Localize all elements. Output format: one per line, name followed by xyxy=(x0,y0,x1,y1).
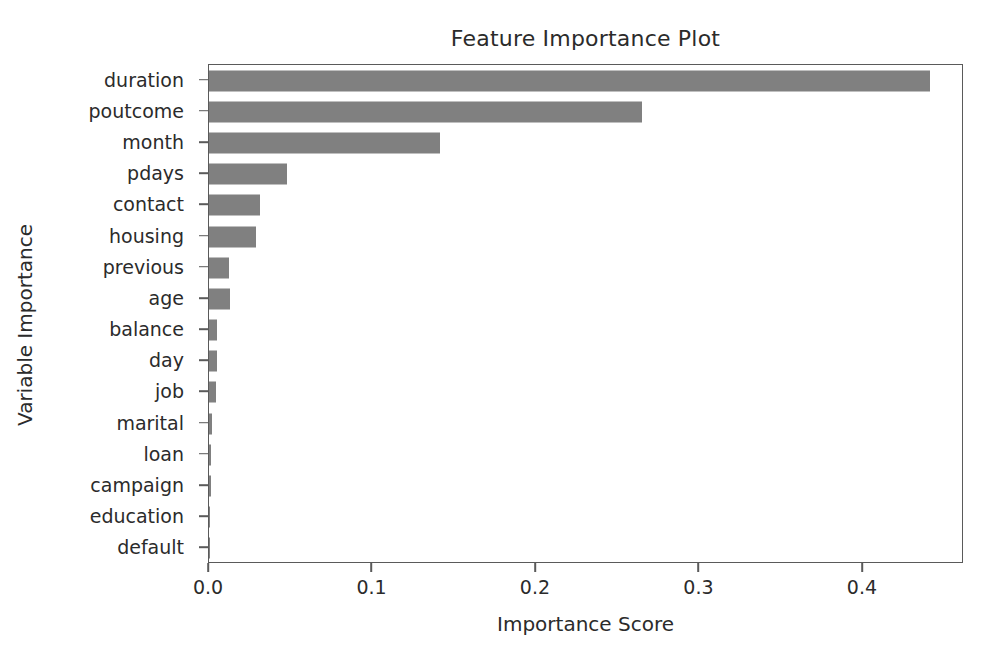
y-tick-label-previous: previous xyxy=(103,257,184,276)
y-tick-mark xyxy=(199,453,208,455)
x-tick-mark xyxy=(207,563,209,572)
bar-series xyxy=(209,65,962,562)
x-tick-mark xyxy=(698,563,700,572)
bar-contact xyxy=(209,195,260,216)
y-tick-mark xyxy=(199,235,208,237)
y-tick-mark xyxy=(199,484,208,486)
y-tick-label-job: job xyxy=(155,382,184,401)
bar-month xyxy=(209,132,440,153)
y-tick-label-poutcome: poutcome xyxy=(89,101,184,120)
x-tick-label-0.2: 0.2 xyxy=(520,578,550,597)
bar-housing xyxy=(209,226,256,247)
y-tick-mark xyxy=(199,204,208,206)
bar-day xyxy=(209,351,217,372)
y-tick-label-contact: contact xyxy=(113,195,184,214)
bar-age xyxy=(209,288,230,309)
bar-row xyxy=(209,502,962,533)
y-tick-label-balance: balance xyxy=(109,320,184,339)
bar-row xyxy=(209,221,962,252)
x-tick-mark xyxy=(861,563,863,572)
bar-row xyxy=(209,190,962,221)
bar-loan xyxy=(209,444,211,465)
bar-row xyxy=(209,315,962,346)
bar-marital xyxy=(209,413,212,434)
y-tick-label-duration: duration xyxy=(104,70,184,89)
y-tick-label-loan: loan xyxy=(143,444,184,463)
x-axis-tick-labels: 0.00.10.20.30.4 xyxy=(208,578,963,606)
x-axis-title: Importance Score xyxy=(208,612,963,636)
y-tick-label-housing: housing xyxy=(109,226,184,245)
plot-area xyxy=(208,64,963,563)
bar-balance xyxy=(209,320,217,341)
bar-poutcome xyxy=(209,101,642,122)
bar-row xyxy=(209,96,962,127)
bar-row xyxy=(209,159,962,190)
y-axis-tick-labels: durationpoutcomemonthpdayscontacthousing… xyxy=(0,64,198,563)
bar-row xyxy=(209,377,962,408)
y-tick-label-month: month xyxy=(122,132,184,151)
bar-row xyxy=(209,283,962,314)
bar-row xyxy=(209,252,962,283)
bar-campaign xyxy=(209,476,211,497)
y-tick-label-marital: marital xyxy=(116,413,184,432)
y-tick-label-education: education xyxy=(90,507,184,526)
x-tick-label-0.4: 0.4 xyxy=(847,578,877,597)
bar-pdays xyxy=(209,164,287,185)
y-tick-label-campaign: campaign xyxy=(90,476,184,495)
y-tick-mark xyxy=(199,79,208,81)
bar-row xyxy=(209,470,962,501)
bar-education xyxy=(209,507,210,528)
y-tick-label-day: day xyxy=(149,351,184,370)
y-tick-mark xyxy=(199,266,208,268)
chart-title: Feature Importance Plot xyxy=(208,26,963,51)
bar-row xyxy=(209,127,962,158)
y-tick-mark xyxy=(199,328,208,330)
bar-duration xyxy=(209,70,930,91)
y-tick-mark xyxy=(199,422,208,424)
figure-canvas: Feature Importance Plot Variable Importa… xyxy=(0,0,1006,665)
x-tick-label-0.0: 0.0 xyxy=(193,578,223,597)
bar-row xyxy=(209,533,962,564)
x-axis-tick-marks xyxy=(208,563,963,573)
y-tick-mark xyxy=(199,515,208,517)
bar-row xyxy=(209,439,962,470)
y-tick-mark xyxy=(199,110,208,112)
y-tick-label-pdays: pdays xyxy=(127,164,184,183)
x-tick-mark xyxy=(534,563,536,572)
x-tick-mark xyxy=(371,563,373,572)
y-tick-mark xyxy=(199,391,208,393)
y-tick-label-age: age xyxy=(149,288,184,307)
y-tick-mark xyxy=(199,141,208,143)
y-tick-label-default: default xyxy=(117,538,184,557)
x-tick-label-0.3: 0.3 xyxy=(683,578,713,597)
bar-row xyxy=(209,408,962,439)
y-tick-mark xyxy=(199,297,208,299)
y-tick-mark xyxy=(199,172,208,174)
bar-job xyxy=(209,382,216,403)
y-tick-mark xyxy=(199,359,208,361)
bar-row xyxy=(209,346,962,377)
bar-previous xyxy=(209,257,229,278)
y-axis-tick-marks xyxy=(198,64,208,563)
y-tick-mark xyxy=(199,547,208,549)
x-tick-label-0.1: 0.1 xyxy=(356,578,386,597)
bar-row xyxy=(209,65,962,96)
